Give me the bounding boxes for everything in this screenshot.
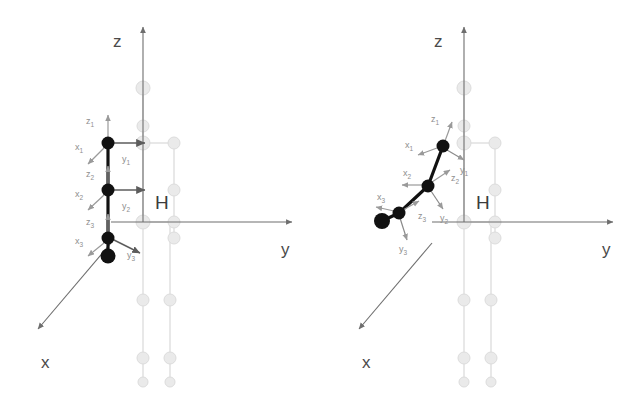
right-ankle-node	[485, 352, 497, 364]
x2-label: x2	[403, 168, 412, 180]
left-ankle-node	[137, 352, 149, 364]
world-axes-right	[359, 27, 613, 329]
x2-arrow	[88, 195, 104, 210]
elbow-joint	[422, 180, 435, 193]
panel-bent-configuration: z y x H z1 x1 y1	[321, 0, 642, 396]
y-axis-label: y	[281, 240, 290, 259]
y3-arrow	[400, 218, 407, 240]
y2-label: y2	[122, 201, 131, 213]
right-wrist-node	[168, 232, 180, 244]
y3-label: y3	[127, 250, 136, 262]
z3-label: z3	[86, 217, 95, 229]
x1-arrow	[418, 148, 437, 155]
shoulder-joint	[437, 140, 450, 153]
wrist-joint	[393, 207, 406, 220]
x3-label: x3	[377, 192, 386, 204]
y1-label: y1	[122, 154, 131, 166]
right-elbow-node	[489, 184, 501, 196]
body-label-h: H	[155, 192, 169, 213]
right-wrist-node	[489, 232, 501, 244]
right-knee-node	[485, 294, 497, 306]
frame-2-axes-left	[88, 166, 145, 210]
figure-canvas: z y x H z1 x1 y1	[0, 0, 642, 396]
shoulder-joint	[102, 137, 115, 150]
right-shoulder-node	[168, 137, 180, 149]
z-axis-label: z	[434, 32, 443, 51]
right-ankle-node	[164, 352, 176, 364]
z2-label: z2	[86, 169, 95, 181]
end-effector	[101, 249, 116, 264]
x1-arrow	[88, 148, 104, 164]
y3-arrow	[112, 239, 140, 253]
left-foot-node	[459, 377, 469, 387]
right-foot-node	[165, 377, 175, 387]
x2-label: x2	[75, 189, 84, 201]
x3-label: x3	[75, 236, 84, 248]
left-knee-node	[458, 294, 470, 306]
z1-arrow	[445, 122, 452, 141]
x-axis-label: x	[362, 353, 371, 372]
z3-label: z3	[418, 211, 427, 223]
x-axis-line	[359, 243, 432, 329]
y3-label: y3	[399, 244, 408, 256]
z-axis-label: z	[113, 32, 122, 51]
z1-label: z1	[431, 114, 440, 126]
y-axis-label: y	[602, 240, 611, 259]
x-axis-line	[38, 243, 111, 329]
y2-arrow	[431, 191, 443, 209]
end-effector	[374, 213, 390, 229]
right-elbow-node	[168, 184, 180, 196]
body-label-h: H	[476, 192, 490, 213]
wrist-joint	[102, 232, 115, 245]
left-foot-node	[138, 377, 148, 387]
z2-label: z2	[451, 173, 460, 185]
frame-3-axes-left	[88, 214, 140, 256]
x-axis-label: x	[41, 353, 50, 372]
arm-joints-right	[374, 140, 450, 230]
left-knee-node	[137, 294, 149, 306]
y1-arrow	[447, 150, 464, 160]
right-shoulder-node	[489, 137, 501, 149]
elbow-joint	[102, 184, 115, 197]
y1-label: y1	[460, 165, 469, 177]
x3-arrow	[376, 207, 394, 211]
right-foot-node	[486, 377, 496, 387]
z1-label: z1	[86, 116, 95, 128]
y2-label: y2	[440, 213, 449, 225]
x1-label: x1	[75, 142, 84, 154]
right-knee-node	[164, 294, 176, 306]
left-ankle-node	[458, 352, 470, 364]
x1-label: x1	[405, 140, 414, 152]
world-axes-left	[38, 27, 292, 329]
panel-home-configuration: z y x H z1 x1 y1	[0, 0, 321, 396]
